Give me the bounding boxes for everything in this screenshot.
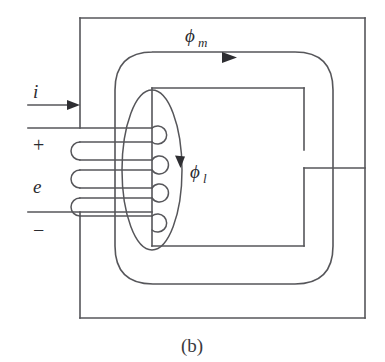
core-flux-diagram: i + e − ϕ m ϕ l (b)	[0, 0, 385, 362]
coil-turn-right-1	[152, 126, 167, 144]
positive-terminal-label: +	[33, 134, 44, 156]
leakage-flux-arrowhead	[175, 156, 185, 169]
current-arrowhead	[67, 100, 80, 110]
current-label: i	[33, 81, 38, 102]
coil-turn-right-2	[152, 156, 168, 174]
figure-container: i + e − ϕ m ϕ l (b)	[0, 0, 385, 362]
coil-turn-left-1	[71, 142, 80, 160]
negative-terminal-label: −	[33, 219, 44, 241]
figure-caption: (b)	[181, 335, 203, 357]
coil-turn-left-2	[71, 170, 80, 188]
emf-label: e	[33, 176, 41, 197]
main-flux-subscript: m	[198, 35, 207, 50]
main-flux-arrowhead	[222, 52, 237, 63]
air-gap	[304, 168, 365, 246]
leakage-flux-subscript: l	[203, 171, 207, 186]
coil-winding	[28, 126, 168, 232]
coil-turn-right-3	[152, 184, 168, 202]
coil-turn-right-4	[152, 214, 167, 232]
main-flux-label: ϕ	[185, 25, 195, 46]
leakage-flux-label: ϕ	[190, 161, 200, 182]
coil-turn-left-3	[71, 198, 80, 216]
